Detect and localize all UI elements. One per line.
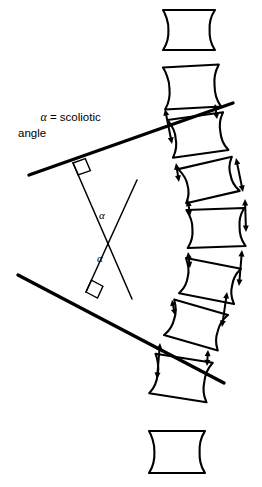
perpendicular-line	[86, 180, 137, 292]
vertebra-body	[186, 208, 245, 248]
diagram-canvas: αα α = scoliotic angle	[0, 0, 262, 487]
arrow-head	[205, 350, 211, 356]
right-angle-marker	[86, 280, 103, 298]
caption-line-2: angle	[18, 127, 46, 139]
scoliosis-cobb-angle-diagram: αα α = scoliotic angle	[0, 0, 262, 487]
vertebra-body	[163, 65, 221, 110]
right-angle-markers	[73, 159, 103, 298]
arrow-head	[234, 158, 240, 165]
alpha-angle-label: α	[99, 209, 105, 221]
arrow-head	[175, 175, 181, 182]
arrow-head	[242, 199, 248, 206]
arrow-head	[237, 279, 243, 286]
vertebrae-column	[149, 10, 246, 473]
caption-line-1: α = scoliotic	[18, 110, 117, 124]
right-angle-marker	[73, 159, 90, 175]
perpendicular-lines	[73, 163, 137, 299]
alpha-angle-label: α	[97, 252, 103, 264]
vertebra-body	[178, 157, 239, 203]
arrow-head	[174, 163, 180, 170]
perpendicular-line	[73, 163, 132, 299]
alpha-angle-labels: αα	[97, 209, 105, 264]
vertebra-body	[168, 112, 229, 157]
arrow-head	[238, 250, 244, 257]
arrow-head	[243, 225, 249, 232]
vertebra-body	[149, 431, 205, 473]
arrow-head	[186, 252, 192, 258]
arrow-head	[168, 137, 174, 144]
disc-space-arrow	[242, 199, 249, 232]
vertebra-body	[163, 10, 215, 50]
